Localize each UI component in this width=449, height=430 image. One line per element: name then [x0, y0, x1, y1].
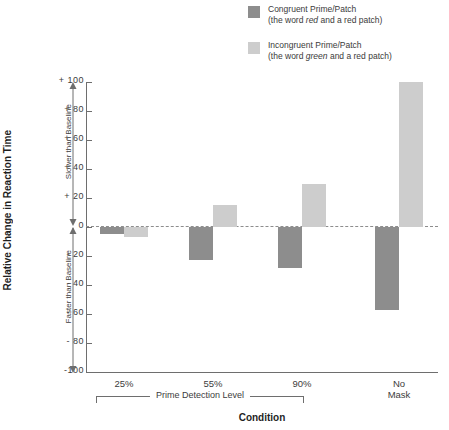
- legend-swatch-incongruent: [248, 42, 260, 54]
- legend-swatch-congruent: [248, 6, 260, 18]
- x-axis-label-line: 25%: [89, 378, 159, 389]
- plot-area: + 100+ 80+ 60+ 40+ 200- 20- 40- 60- 80-1…: [86, 82, 438, 372]
- prime-detection-level-bracket: Prime Detection Level: [96, 396, 304, 406]
- x-axis-label-line: 90%: [267, 378, 337, 389]
- legend-item-incongruent: Incongruent Prime/Patch (the word green …: [248, 40, 448, 62]
- y-axis-tick-mark: [87, 140, 92, 141]
- bracket-tick-right: [303, 396, 304, 403]
- y-axis-tick-mark: [87, 82, 92, 83]
- x-axis-label-25-: 25%: [89, 378, 159, 389]
- y-axis-tick-mark: [87, 343, 92, 344]
- y-axis-tick-mark: [87, 285, 92, 286]
- x-axis-label-line: No: [364, 378, 434, 389]
- y-axis-tick-mark: [87, 372, 92, 373]
- bar-55--incongruent: [213, 205, 237, 227]
- y-axis-tick-mark: [87, 111, 92, 112]
- y-axis-tick-mark: [87, 314, 92, 315]
- legend-sub-pre-incongruent: (the word: [268, 51, 306, 61]
- y-axis-tick-mark: [87, 198, 92, 199]
- x-axis-title: Condition: [86, 412, 438, 423]
- bar-90--incongruent: [302, 184, 326, 228]
- bracket-label: Prime Detection Level: [150, 390, 250, 400]
- legend-label-congruent: Congruent Prime/Patch (the word red and …: [268, 4, 382, 26]
- x-axis-label-line: Mask: [364, 389, 434, 400]
- legend-title-congruent: Congruent Prime/Patch: [268, 4, 356, 14]
- legend-sub-incongruent: (the word green and a red patch): [268, 51, 392, 61]
- legend-sub-congruent: (the word red and a red patch): [268, 15, 382, 25]
- baseline-annotations: Slower than Baseline Faster than Baselin…: [62, 82, 84, 373]
- legend-label-incongruent: Incongruent Prime/Patch (the word green …: [268, 40, 392, 62]
- bar-25--congruent: [100, 227, 124, 234]
- chart-legend: Congruent Prime/Patch (the word red and …: [248, 4, 448, 76]
- legend-sub-post-incongruent: and a red patch): [328, 51, 392, 61]
- y-axis-tick-mark: [87, 169, 92, 170]
- legend-sub-em-incongruent: green: [306, 51, 328, 61]
- x-axis-label-line: 55%: [178, 378, 248, 389]
- bracket-tick-left: [96, 396, 97, 403]
- legend-sub-post-congruent: and a red patch): [318, 15, 382, 25]
- annotation-slower-than-baseline: Slower than Baseline: [64, 104, 73, 179]
- legend-sub-em-congruent: red: [306, 15, 318, 25]
- y-axis-tick-mark: [87, 227, 92, 228]
- x-axis-label-no-mask: NoMask: [364, 378, 434, 400]
- legend-sub-pre-congruent: (the word: [268, 15, 306, 25]
- bar-55--congruent: [189, 227, 213, 260]
- legend-item-congruent: Congruent Prime/Patch (the word red and …: [248, 4, 448, 26]
- x-axis-line: [86, 372, 438, 373]
- legend-title-incongruent: Incongruent Prime/Patch: [268, 40, 362, 50]
- bar-25--incongruent: [124, 227, 148, 237]
- x-axis-label-90-: 90%: [267, 378, 337, 389]
- bar-no-mask-congruent: [375, 227, 399, 310]
- y-axis-title: Relative Change in Reaction Time: [2, 130, 13, 290]
- bar-90--congruent: [278, 227, 302, 268]
- annotation-faster-than-baseline: Faster than Baseline: [64, 250, 73, 323]
- bar-no-mask-incongruent: [399, 82, 423, 227]
- x-axis-label-55-: 55%: [178, 378, 248, 389]
- y-axis-tick-mark: [87, 256, 92, 257]
